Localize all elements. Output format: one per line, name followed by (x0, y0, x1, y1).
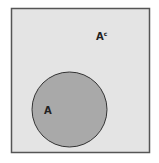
complement-superscript: c (104, 30, 108, 37)
venn-diagram: A Ac (0, 0, 159, 163)
set-a-label: A (44, 105, 52, 116)
